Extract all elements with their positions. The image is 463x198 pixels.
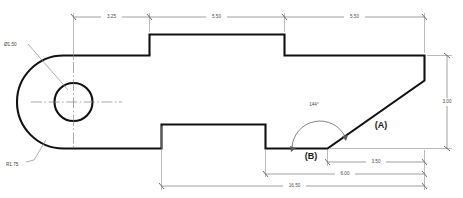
cad-drawing-svg: 3.25 5.50 5.50 3.00 (0, 0, 463, 198)
hole-diameter-label: Ø1.50 (4, 42, 17, 47)
dim-label-top-2: 5.50 (212, 14, 221, 19)
vertex-label-a: (A) (375, 120, 388, 130)
corner-radius-label: R1.75 (6, 162, 19, 167)
hole-diameter-callout: Ø1.50 (4, 42, 68, 90)
top-dimension-chain: 3.25 5.50 5.50 (71, 13, 427, 60)
dim-label-bottom-1: 3.50 (372, 159, 381, 164)
leader-line-radius-tail (26, 160, 34, 162)
engineering-drawing-canvas: 3.25 5.50 5.50 3.00 (0, 0, 463, 198)
corner-radius-callout: R1.75 (6, 140, 46, 167)
dim-label-bottom-3: 16.50 (289, 183, 301, 188)
part-outline-path (17, 35, 425, 149)
dim-label-right: 3.00 (443, 99, 452, 104)
dim-label-top-1: 3.25 (107, 14, 116, 19)
part-geometry (17, 35, 425, 149)
bottom-dimension-chain: 3.50 6.00 16.50 (159, 126, 427, 190)
angle-label: 144° (309, 102, 319, 107)
dim-label-top-3: 5.50 (350, 14, 359, 19)
vertex-label-b: (B) (305, 151, 318, 161)
angle-arc-path (292, 121, 346, 148)
centerlines (31, 62, 122, 150)
dim-label-bottom-2: 6.00 (341, 171, 350, 176)
angle-callout: 144° (290, 102, 348, 152)
